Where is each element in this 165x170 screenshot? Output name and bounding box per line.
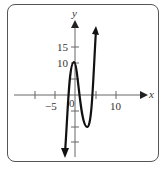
x-tick-label-10: 10: [110, 101, 121, 112]
x-tick-label-0: 0: [69, 98, 75, 109]
y-tick-label-15: 15: [57, 42, 68, 53]
y-axis-label: y: [72, 8, 77, 19]
curve: [65, 30, 96, 153]
curve-arrow-down: [61, 148, 69, 158]
y-tick-label-10: 10: [57, 58, 68, 69]
x-axis-label: x: [149, 89, 154, 100]
x-tick-label-neg5: −5: [45, 101, 57, 112]
cubic-plot: [0, 0, 165, 170]
curve-arrow-up: [92, 26, 99, 35]
